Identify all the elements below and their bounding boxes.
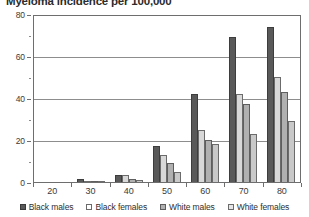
y-axis-tick-label: 40 (16, 94, 25, 104)
bar (153, 146, 160, 182)
legend-swatch-icon (228, 204, 234, 210)
legend-label: White females (237, 202, 290, 212)
y-axis-minor-tick (29, 78, 32, 79)
legend-item[interactable]: White females (228, 202, 290, 212)
y-axis-tick-label: 0 (20, 178, 25, 188)
bar (160, 155, 167, 182)
bar-groups (34, 16, 300, 182)
bar (212, 144, 219, 182)
bar-group (148, 16, 186, 182)
bar-group (34, 16, 72, 182)
chart-legend: Black malesBlack femalesWhite malesWhite… (0, 200, 309, 214)
y-axis-tick-label: 20 (16, 136, 25, 146)
plot-area (33, 15, 301, 183)
bar (84, 181, 91, 182)
y-axis-tick (27, 15, 31, 16)
bar (250, 134, 257, 182)
bar (267, 27, 274, 182)
bar (236, 94, 243, 182)
legend-swatch-icon (160, 204, 166, 210)
bar (198, 130, 205, 183)
legend-label: White males (169, 202, 215, 212)
bar (243, 104, 250, 182)
x-axis-tick-label: 40 (110, 186, 148, 200)
x-axis-tick-label: 70 (224, 186, 262, 200)
bar (77, 179, 84, 182)
bar (129, 179, 136, 182)
bar-group (262, 16, 300, 182)
y-axis-tick-label: 60 (16, 52, 25, 62)
legend-swatch-icon (20, 204, 26, 210)
bar (229, 37, 236, 182)
bar (174, 172, 181, 183)
bar-group (224, 16, 262, 182)
chart-title: Myeloma incidence per 100,000 (6, 0, 172, 8)
legend-item[interactable]: Black females (86, 202, 147, 212)
bar (288, 121, 295, 182)
y-axis-minor-tick (29, 36, 32, 37)
y-axis-tick (27, 99, 31, 100)
bar (115, 175, 122, 182)
y-axis-tick-label: 80 (16, 10, 25, 20)
x-axis-tick-label: 80 (263, 186, 301, 200)
legend-label: Black males (29, 202, 74, 212)
bar-group (72, 16, 110, 182)
bar (98, 181, 105, 182)
myeloma-incidence-bar-chart: Myeloma incidence per 100,000 020406080 … (0, 0, 309, 217)
y-axis-tick (27, 57, 31, 58)
y-axis-minor-tick (29, 162, 32, 163)
x-axis-tick-label: 50 (148, 186, 186, 200)
x-axis-tick (301, 183, 302, 187)
bar (191, 94, 198, 182)
bar-group (186, 16, 224, 182)
bar (281, 92, 288, 182)
x-axis-tick-label: 20 (33, 186, 71, 200)
bar (122, 175, 129, 182)
legend-item[interactable]: Black males (20, 202, 74, 212)
x-axis-tick-label: 30 (71, 186, 109, 200)
bar (136, 180, 143, 182)
x-axis-tick-label: 60 (186, 186, 224, 200)
legend-swatch-icon (86, 204, 92, 210)
y-axis: 020406080 (0, 15, 31, 183)
y-axis-tick (27, 141, 31, 142)
x-axis-labels: 20304050607080 (33, 186, 301, 200)
y-axis-tick (27, 183, 31, 184)
legend-label: Black females (95, 202, 147, 212)
bar-group (110, 16, 148, 182)
bar (274, 77, 281, 182)
bar (91, 181, 98, 182)
y-axis-minor-tick (29, 120, 32, 121)
bar (205, 140, 212, 182)
bar (167, 163, 174, 182)
legend-item[interactable]: White males (160, 202, 215, 212)
